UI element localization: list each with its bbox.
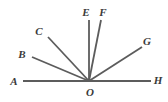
label-B: B bbox=[18, 49, 25, 60]
rays-group bbox=[32, 20, 142, 81]
label-A: A bbox=[10, 76, 17, 87]
geometry-figure: ABCEFGHO bbox=[0, 0, 168, 102]
label-C: C bbox=[35, 26, 42, 37]
ray-OB bbox=[32, 57, 89, 81]
label-H: H bbox=[154, 75, 163, 86]
ray-OG bbox=[89, 47, 142, 81]
ray-OC bbox=[48, 37, 89, 81]
label-G: G bbox=[143, 36, 151, 47]
label-E: E bbox=[82, 7, 89, 18]
label-O: O bbox=[86, 87, 94, 98]
label-F: F bbox=[99, 7, 106, 18]
ray-OF bbox=[89, 20, 101, 81]
